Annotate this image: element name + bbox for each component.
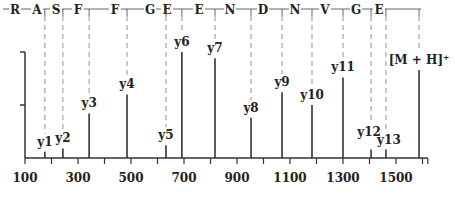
residue-S: S [52, 3, 61, 17]
x-tick-label: 1100 [273, 171, 306, 185]
residue-V: V [319, 3, 330, 17]
peak-label: y13 [376, 133, 401, 147]
residue-A: A [31, 3, 42, 17]
peak-label: y9 [273, 75, 289, 89]
peak-label: [M + H]⁺ [389, 53, 450, 67]
peptide-sequence-ladder: RASFFGEENDNVGE [3, 2, 421, 17]
residue-F: F [111, 3, 120, 17]
peak-label: y7 [206, 41, 222, 55]
peaks: y1y2y3y4y5y6y7y8y9y10y11y12y13[M + H]⁺ [36, 35, 449, 158]
peak-label: y10 [299, 88, 324, 102]
peak-label: y2 [54, 131, 70, 145]
x-tick-label: 100 [12, 171, 37, 185]
peak-label: y11 [330, 60, 355, 74]
residue-E: E [162, 3, 171, 17]
residue-R: R [10, 3, 21, 17]
x-tick-label: 900 [224, 171, 249, 185]
residue-N: N [225, 3, 236, 17]
residue-N: N [290, 3, 301, 17]
x-tick-label: 500 [118, 171, 143, 185]
x-tick-label: 300 [65, 171, 90, 185]
residue-D: D [258, 3, 268, 17]
residue-G: G [145, 3, 155, 17]
mass-spectrum-chart: RASFFGEENDNVGE 1003005007009001100130015… [0, 0, 455, 197]
residue-G: G [351, 3, 361, 17]
peak-label: y8 [242, 101, 258, 115]
peak-label: y1 [36, 135, 52, 149]
axes: 100300500700900110013001500 [12, 52, 427, 185]
peak-label: y4 [118, 77, 134, 91]
x-tick-label: 700 [171, 171, 196, 185]
x-tick-label: 1300 [326, 171, 359, 185]
fragment-guide-lines [45, 16, 419, 134]
peak-label: y3 [80, 96, 96, 110]
x-tick-label: 1500 [379, 171, 412, 185]
residue-E: E [374, 3, 383, 17]
residue-E: E [194, 3, 203, 17]
peak-label: y6 [173, 35, 189, 49]
residue-F: F [74, 3, 83, 17]
peak-label: y5 [157, 128, 173, 142]
